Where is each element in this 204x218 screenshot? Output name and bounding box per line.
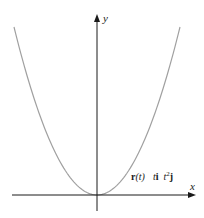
i-unit: i: [156, 171, 159, 182]
x-axis-label: x: [189, 180, 195, 192]
y-axis-label: y: [102, 12, 108, 24]
y-axis-arrow-icon: [94, 14, 100, 22]
t-param: (t): [135, 171, 145, 183]
curve-equation-label: r(t)tit2j: [131, 170, 173, 183]
j-unit: j: [169, 171, 173, 182]
x-axis-arrow-icon: [188, 192, 196, 198]
parabola-diagram: x y r(t)tit2j: [0, 0, 204, 218]
